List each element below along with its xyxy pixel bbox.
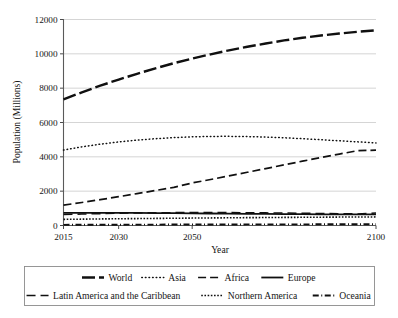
y-tick-label-4000: 4000 <box>39 152 58 162</box>
y-tick-label-12000: 12000 <box>35 15 58 25</box>
legend-label-africa[interactable]: Africa <box>225 272 250 283</box>
x-tick-label-2100: 2100 <box>367 232 386 242</box>
x-tick-label-2015: 2015 <box>54 232 73 242</box>
legend-label-europe[interactable]: Europe <box>288 272 316 283</box>
y-tick-label-0: 0 <box>53 221 58 231</box>
y-tick-label-6000: 6000 <box>39 118 58 128</box>
x-tick-label-2030: 2030 <box>109 232 128 242</box>
chart-figure: 020004000600080001000012000 201520302050… <box>0 0 398 318</box>
y-axis-title: Population (Millions) <box>11 81 23 164</box>
legend-label-oceania[interactable]: Oceania <box>339 290 371 301</box>
legend-label-asia[interactable]: Asia <box>168 272 186 283</box>
y-tick-label-8000: 8000 <box>39 83 58 93</box>
legend-label-world[interactable]: World <box>109 272 133 283</box>
y-tick-label-2000: 2000 <box>39 186 58 196</box>
legend-label-northern-america[interactable]: Northern America <box>228 290 298 301</box>
y-tick-label-10000: 10000 <box>35 49 58 59</box>
x-tick-label-2050: 2050 <box>183 232 202 242</box>
population-projection-line-chart: 020004000600080001000012000 201520302050… <box>0 0 398 318</box>
x-axis-title: Year <box>211 244 229 255</box>
legend-label-latin-america-and-the-caribbean[interactable]: Latin America and the Caribbean <box>53 290 181 301</box>
